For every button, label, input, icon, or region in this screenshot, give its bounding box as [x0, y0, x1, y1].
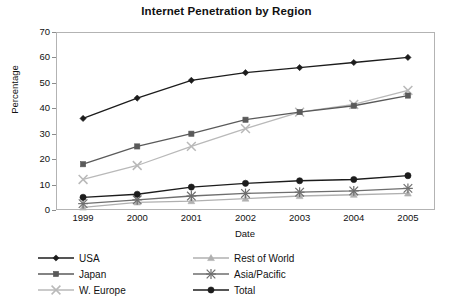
data-point-square — [80, 162, 85, 167]
data-point-square — [189, 131, 194, 136]
legend-key — [191, 282, 231, 298]
legend-key — [191, 266, 231, 282]
data-point-asterisk — [295, 187, 305, 197]
x-tick-label: 2003 — [277, 212, 323, 223]
series-line — [83, 57, 408, 118]
legend-label: Rest of World — [234, 253, 294, 264]
legend-key — [36, 282, 76, 298]
x-tick-label: 2005 — [385, 212, 431, 223]
x-tick-label: 2000 — [114, 212, 160, 223]
data-point-x — [79, 175, 88, 184]
data-point-diamond — [80, 115, 86, 121]
data-point-diamond — [53, 255, 59, 261]
y-axis-title: Percentage — [9, 45, 20, 135]
x-tick-label: 1999 — [60, 212, 106, 223]
data-point-square — [405, 93, 410, 98]
legend-item[interactable]: Japan — [36, 266, 126, 282]
legend-label: Japan — [79, 269, 106, 280]
legend-item[interactable]: Total — [191, 282, 294, 298]
data-point-x — [241, 124, 250, 133]
legend-marker-asterisk — [191, 266, 231, 282]
data-point-circle — [188, 184, 194, 190]
data-point-x — [187, 142, 196, 151]
legend-label: Total — [234, 285, 255, 296]
data-point-asterisk — [186, 191, 196, 201]
data-point-circle — [208, 287, 214, 293]
legend-marker-x — [36, 282, 76, 298]
y-tick-label: 20 — [24, 154, 50, 164]
data-point-x — [133, 161, 142, 170]
data-point-circle — [134, 191, 140, 197]
series-japan — [80, 93, 410, 167]
x-axis-title: Date — [55, 228, 435, 239]
legend-key — [36, 250, 76, 266]
x-tick-label: 2004 — [331, 212, 377, 223]
legend-key — [36, 266, 76, 282]
legend-label: W. Europe — [79, 285, 126, 296]
data-point-diamond — [134, 95, 140, 101]
legend-marker-square — [36, 266, 76, 282]
series-asia-pacific — [78, 183, 413, 208]
data-point-diamond — [242, 70, 248, 76]
legend-column-right: Rest of WorldAsia/PacificTotal — [191, 250, 294, 298]
y-tick-label: 0 — [24, 205, 50, 215]
legend-item[interactable]: USA — [36, 250, 126, 266]
x-tick-label: 2001 — [168, 212, 214, 223]
data-point-square — [297, 110, 302, 115]
data-point-circle — [80, 194, 86, 200]
legend-item[interactable]: W. Europe — [36, 282, 126, 298]
data-point-square — [243, 117, 248, 122]
y-tick-label: 60 — [24, 52, 50, 62]
series-usa — [80, 54, 411, 121]
data-point-circle — [297, 178, 303, 184]
data-point-circle — [351, 176, 357, 182]
legend-key — [191, 250, 231, 266]
series-line — [83, 90, 408, 179]
legend-marker-circle — [191, 282, 231, 298]
legend-label: Asia/Pacific — [234, 269, 286, 280]
y-tick-label: 50 — [24, 78, 50, 88]
data-point-asterisk — [241, 189, 251, 199]
data-point-circle — [405, 173, 411, 179]
legend-column-left: USAJapanW. Europe — [36, 250, 126, 298]
data-point-diamond — [188, 77, 194, 83]
legend-marker-triangle — [191, 250, 231, 266]
y-tick-mark — [52, 210, 56, 211]
legend-item[interactable]: Asia/Pacific — [191, 266, 294, 282]
data-point-diamond — [297, 65, 303, 71]
y-tick-label: 40 — [24, 103, 50, 113]
x-tick-label: 2002 — [223, 212, 269, 223]
data-point-square — [135, 144, 140, 149]
data-point-square — [351, 103, 356, 108]
series-line — [83, 96, 408, 165]
chart-title: Internet Penetration by Region — [0, 5, 453, 17]
chart-container: Internet Penetration by Region Percentag… — [0, 0, 453, 302]
legend-item[interactable]: Rest of World — [191, 250, 294, 266]
data-point-asterisk — [206, 269, 216, 279]
y-tick-label: 30 — [24, 129, 50, 139]
data-point-asterisk — [403, 183, 413, 193]
data-point-diamond — [405, 54, 411, 60]
legend-marker-diamond — [36, 250, 76, 266]
data-point-diamond — [351, 59, 357, 65]
y-tick-label: 10 — [24, 180, 50, 190]
data-point-circle — [242, 180, 248, 186]
data-point-square — [53, 271, 58, 276]
chart-legend: USAJapanW. Europe Rest of WorldAsia/Paci… — [36, 250, 436, 300]
plot-series-layer — [56, 32, 435, 210]
y-tick-label: 70 — [24, 27, 50, 37]
legend-label: USA — [79, 253, 100, 264]
data-point-asterisk — [349, 186, 359, 196]
